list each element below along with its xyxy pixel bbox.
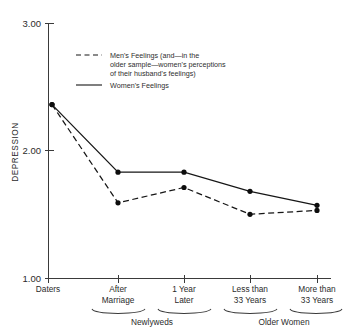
marker-mens-one-year-later xyxy=(181,185,186,190)
legend-label-mens-line1: Men's Feelings (and—in the xyxy=(110,51,199,60)
legend-label-mens-line2: older sample—women's perceptions xyxy=(110,60,226,69)
group-label-newlyweds: Newlyweds xyxy=(131,317,173,327)
brace-one-year-later xyxy=(158,309,211,314)
x-label-daters-line1: Daters xyxy=(36,284,60,294)
brace-less-than-33 xyxy=(224,309,277,314)
group-label-older-women: Older Women xyxy=(258,317,309,327)
brace-after-marriage xyxy=(92,309,145,314)
x-label-more-than-33-line2: 33 Years xyxy=(301,295,333,305)
y-tick-label-3: 3.00 xyxy=(23,18,42,29)
chart-canvas: 3.00 2.00 1.00 DEPRESSION Men's Feelings… xyxy=(0,0,343,334)
brace-more-than-33 xyxy=(290,309,342,314)
series-womens-feelings-line xyxy=(52,105,317,206)
x-label-one-year-later-line1: 1 Year xyxy=(172,284,196,294)
x-label-after-marriage-line1: After xyxy=(109,284,127,294)
legend-label-mens-line3: of their husband's feelings) xyxy=(110,69,196,78)
depression-line-chart: 3.00 2.00 1.00 DEPRESSION Men's Feelings… xyxy=(0,0,343,334)
marker-mens-less-than-33 xyxy=(247,212,252,217)
marker-womens-daters xyxy=(49,102,54,107)
y-axis-title: DEPRESSION xyxy=(11,122,20,182)
marker-mens-more-than-33 xyxy=(314,208,319,213)
marker-womens-one-year-later xyxy=(181,170,186,175)
marker-womens-after-marriage xyxy=(115,170,120,175)
x-label-after-marriage-line2: Marriage xyxy=(102,295,135,305)
x-label-more-than-33-line1: More than xyxy=(298,284,336,294)
y-tick-label-1: 1.00 xyxy=(23,273,42,284)
x-label-less-than-33-line1: Less than xyxy=(232,284,268,294)
marker-womens-less-than-33 xyxy=(247,189,252,194)
series-mens-feelings-line xyxy=(52,105,317,215)
marker-mens-after-marriage xyxy=(115,200,120,205)
legend-label-womens: Women's Feelings xyxy=(110,81,169,90)
x-label-one-year-later-line2: Later xyxy=(175,295,194,305)
x-label-less-than-33-line2: 33 Years xyxy=(234,295,266,305)
marker-womens-more-than-33 xyxy=(314,203,319,208)
y-tick-label-2: 2.00 xyxy=(23,145,42,156)
